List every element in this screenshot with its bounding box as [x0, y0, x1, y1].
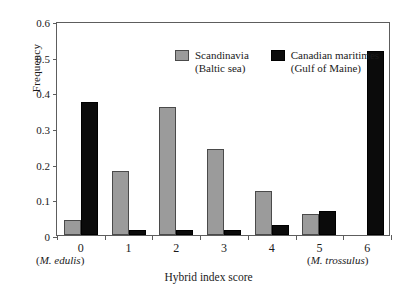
- figure-bar-chart: Frequency 00.10.20.30.40.50.6 0123456 Sc…: [0, 0, 417, 293]
- x-tick-mark: [248, 235, 249, 240]
- y-tick-label: 0.2: [21, 160, 57, 172]
- bar-canadian-maritimes-0: [81, 102, 98, 235]
- bar-scandinavia-0: [64, 220, 81, 235]
- legend-swatch-scandinavia-icon: [175, 50, 189, 61]
- bar-scandinavia-1: [112, 171, 129, 235]
- y-tick-label: 0.4: [21, 88, 57, 100]
- x-tick-mark: [200, 235, 201, 240]
- x-tick-label: 4: [252, 241, 292, 256]
- y-tick-label: 0.5: [21, 53, 57, 65]
- x-tick-mark: [391, 235, 392, 240]
- species-label-right: (M. trossulus): [307, 254, 368, 266]
- bar-scandinavia-2: [159, 107, 176, 235]
- bar-canadian-maritimes-5: [319, 211, 336, 235]
- legend-item-scandinavia: Scandinavia (Baltic sea): [175, 49, 249, 75]
- bar-canadian-maritimes-3: [224, 230, 241, 235]
- bar-canadian-maritimes-2: [176, 230, 193, 235]
- y-tick-mark: [53, 23, 57, 24]
- x-tick-mark: [296, 235, 297, 240]
- y-tick-mark: [53, 201, 57, 202]
- plot-area: 00.10.20.30.40.50.6 0123456 Scandinavia …: [56, 22, 390, 236]
- species-left-name: M. edulis: [40, 254, 81, 266]
- species-left-close-paren: ): [81, 254, 85, 266]
- legend-label-scandinavia: Scandinavia (Baltic sea): [195, 49, 249, 75]
- legend-sublabel-canadian-maritimes: (Gulf of Maine): [291, 62, 379, 75]
- bar-canadian-maritimes-6: [367, 51, 384, 235]
- x-tick-mark: [343, 235, 344, 240]
- legend-item-canadian-maritimes: Canadian maritimes (Gulf of Maine): [271, 49, 379, 75]
- y-tick-label: 0.1: [21, 195, 57, 207]
- x-tick-label: 1: [109, 241, 149, 256]
- bar-canadian-maritimes-4: [272, 225, 289, 235]
- x-axis-title: Hybrid index score: [0, 271, 417, 283]
- species-right-name: M. trossulus: [311, 254, 365, 266]
- x-tick-label: 3: [204, 241, 244, 256]
- x-tick-mark: [152, 235, 153, 240]
- y-tick-label: 0.3: [21, 124, 57, 136]
- y-tick-label: 0.6: [21, 17, 57, 29]
- legend-swatch-canadian-maritimes-icon: [271, 50, 285, 61]
- species-right-close-paren: ): [365, 254, 369, 266]
- y-tick-mark: [53, 166, 57, 167]
- x-tick-mark: [57, 235, 58, 240]
- x-tick-label: 2: [156, 241, 196, 256]
- y-tick-mark: [53, 59, 57, 60]
- bar-scandinavia-3: [207, 149, 224, 235]
- bar-scandinavia-4: [255, 191, 272, 235]
- legend: Scandinavia (Baltic sea) Canadian mariti…: [175, 49, 379, 75]
- species-label-left: (M. edulis): [36, 254, 84, 266]
- y-tick-mark: [53, 130, 57, 131]
- y-tick-mark: [53, 94, 57, 95]
- bar-canadian-maritimes-1: [129, 230, 146, 235]
- y-tick-label: 0: [21, 231, 57, 243]
- legend-sublabel-scandinavia: (Baltic sea): [195, 62, 249, 75]
- legend-label-canadian-maritimes-text: Canadian maritimes: [291, 49, 379, 61]
- legend-label-scandinavia-text: Scandinavia: [195, 49, 249, 61]
- legend-label-canadian-maritimes: Canadian maritimes (Gulf of Maine): [291, 49, 379, 75]
- bar-scandinavia-5: [302, 214, 319, 235]
- x-tick-mark: [105, 235, 106, 240]
